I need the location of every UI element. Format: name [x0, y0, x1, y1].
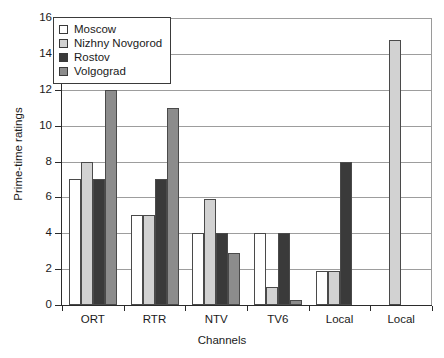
- y-axis-tick-label: 16: [2, 12, 52, 24]
- bar: [167, 108, 179, 305]
- legend-item-label: Nizhny Novgorod: [74, 37, 162, 49]
- legend-swatch-icon: [59, 67, 68, 76]
- bar: [328, 271, 340, 305]
- y-axis-tick: [55, 162, 61, 163]
- legend-item-label: Volgograd: [74, 65, 126, 77]
- y-axis-tick: [55, 197, 61, 198]
- bar: [228, 253, 240, 305]
- bar: [155, 179, 167, 305]
- y-axis-tick-label-wrap: 16: [0, 12, 52, 24]
- bar: [81, 162, 93, 306]
- y-axis-tick-label-wrap: 0: [0, 299, 52, 311]
- bar: [278, 233, 290, 305]
- legend-item: Rostov: [59, 50, 162, 64]
- x-axis-tick: [124, 306, 125, 311]
- legend-swatch-icon: [59, 25, 68, 34]
- legend-item: Moscow: [59, 22, 162, 36]
- bar: [316, 271, 328, 305]
- bar: [131, 215, 143, 305]
- x-axis-tick: [62, 306, 63, 311]
- x-axis-tick-label: TV6: [247, 313, 309, 325]
- plot-right-border: [431, 18, 432, 305]
- bar: [93, 179, 105, 305]
- y-axis-tick-label: 12: [2, 84, 52, 96]
- bar: [290, 300, 302, 305]
- x-axis-tick-label: Local: [309, 313, 371, 325]
- bar-chart: Prime-time ratings 0246810121416 ORTRTRN…: [0, 0, 444, 358]
- x-axis-tick: [309, 306, 310, 311]
- x-axis-tick: [185, 306, 186, 311]
- legend-item: Volgograd: [59, 64, 162, 78]
- legend-swatch-icon: [59, 53, 68, 62]
- bar: [389, 40, 401, 305]
- x-axis-tick-label: RTR: [124, 313, 186, 325]
- y-axis-tick-label: 4: [2, 227, 52, 239]
- y-axis-tick: [55, 90, 61, 91]
- y-axis-tick: [55, 233, 61, 234]
- y-axis-tick-label-wrap: 14: [0, 48, 52, 60]
- bar: [340, 162, 352, 306]
- bar: [105, 90, 117, 305]
- y-axis-tick: [55, 305, 61, 306]
- gridline: [62, 197, 432, 198]
- y-axis-tick: [55, 269, 61, 270]
- x-axis-tick-label: ORT: [62, 313, 124, 325]
- y-axis-tick: [55, 126, 61, 127]
- y-axis-tick-label-wrap: 2: [0, 263, 52, 275]
- y-axis-tick-label: 6: [2, 191, 52, 203]
- gridline: [62, 90, 432, 91]
- gridline: [62, 126, 432, 127]
- bar: [266, 287, 278, 305]
- legend-item-label: Rostov: [74, 51, 110, 63]
- y-axis-tick-label-wrap: 12: [0, 84, 52, 96]
- x-axis-tick: [370, 306, 371, 311]
- y-axis-tick-label: 0: [2, 299, 52, 311]
- gridline: [62, 269, 432, 270]
- bar: [204, 199, 216, 305]
- x-axis-title: Channels: [0, 334, 444, 346]
- gridline: [62, 233, 432, 234]
- legend: MoscowNizhny NovgorodRostovVolgograd: [53, 17, 171, 84]
- x-axis-tick-label: Local: [370, 313, 432, 325]
- bar: [192, 233, 204, 305]
- y-axis-tick-label-wrap: 10: [0, 120, 52, 132]
- y-axis-tick-label: 2: [2, 263, 52, 275]
- gridline: [62, 162, 432, 163]
- x-axis-tick-label: NTV: [185, 313, 247, 325]
- y-axis-tick-label: 10: [2, 120, 52, 132]
- y-axis-tick-label: 14: [2, 48, 52, 60]
- x-axis-tick: [247, 306, 248, 311]
- y-axis-tick-label: 8: [2, 156, 52, 168]
- legend-item: Nizhny Novgorod: [59, 36, 162, 50]
- bar: [143, 215, 155, 305]
- bar: [254, 233, 266, 305]
- x-axis-tick: [432, 306, 433, 311]
- legend-item-label: Moscow: [74, 23, 116, 35]
- y-axis-tick-label-wrap: 8: [0, 156, 52, 168]
- legend-swatch-icon: [59, 39, 68, 48]
- bar: [216, 233, 228, 305]
- y-axis-tick-label-wrap: 6: [0, 191, 52, 203]
- y-axis-tick-label-wrap: 4: [0, 227, 52, 239]
- bar: [69, 179, 81, 305]
